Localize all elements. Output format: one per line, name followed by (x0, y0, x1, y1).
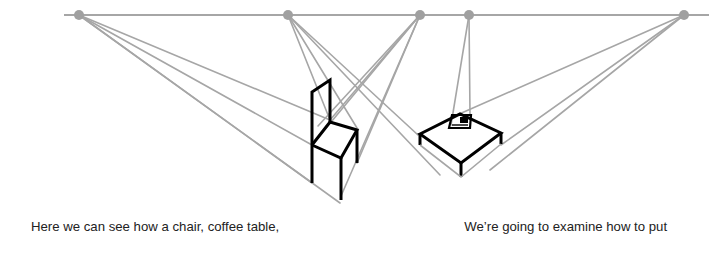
caption-left: Here we can see how a chair, coffee tabl… (31, 183, 327, 266)
caption-right-line: We’re going to examine how to put (380, 218, 689, 236)
caption-right: We’re going to examine how to put these … (380, 183, 689, 266)
vanishing-point-2 (283, 10, 293, 20)
vanishing-point-3 (415, 10, 425, 20)
vanishing-point-1 (74, 10, 84, 20)
construction-lines (79, 15, 684, 203)
vanishing-point-4 (464, 10, 474, 20)
vanishing-point-5 (679, 10, 689, 20)
caption-left-line: Here we can see how a chair, coffee tabl… (31, 218, 327, 236)
